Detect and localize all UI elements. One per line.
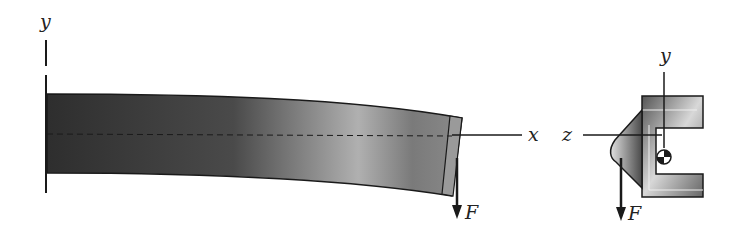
section-z-label: z — [561, 123, 573, 145]
section-lip — [611, 110, 642, 188]
beam-body — [47, 94, 462, 196]
beam-diagram: y x F y z — [0, 0, 747, 234]
cross-section-view: y z F — [561, 44, 703, 224]
centroid-marker-icon — [657, 150, 671, 164]
section-y-label: y — [659, 44, 671, 66]
section-load-arrow-head — [616, 207, 626, 221]
channel-section — [642, 96, 703, 197]
y-axis-label: y — [39, 10, 51, 32]
load-arrow-head — [452, 205, 462, 219]
beam-side-view: y x F — [39, 10, 539, 223]
section-load-label: F — [627, 202, 642, 224]
load-label: F — [464, 201, 479, 223]
x-axis-label: x — [528, 123, 539, 145]
